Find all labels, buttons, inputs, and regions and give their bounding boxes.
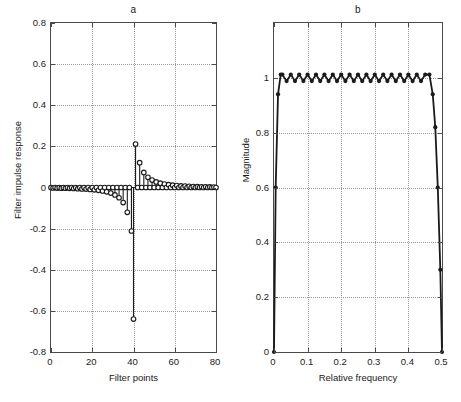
panel-a-x-axis-label: Filter points [50,372,217,383]
x-tick-mark-top [442,23,443,27]
x-tick-label: 80 [210,356,221,367]
x-tick-label: 0 [47,356,52,367]
y-tick-mark [51,270,55,271]
y-tick-mark-right [212,64,216,65]
y-tick-mark-right [438,78,442,79]
y-tick-mark [51,146,55,147]
x-tick-mark [134,348,135,352]
y-tick-label: 0.8 [20,17,46,28]
y-tick-mark-right [438,188,442,189]
y-tick-mark-right [212,311,216,312]
data-point-markers [272,72,444,354]
x-tick-mark-top [216,23,217,27]
x-tick-mark [442,348,443,352]
y-tick-mark [51,311,55,312]
y-tick-mark-right [212,23,216,24]
x-tick-mark [375,348,376,352]
x-tick-mark-top [308,23,309,27]
y-tick-label: -0.6 [20,304,46,315]
y-tick-mark [51,188,55,189]
y-tick-label: -0.2 [20,222,46,233]
x-tick-mark [308,348,309,352]
y-tick-label: 0 [243,346,269,357]
y-tick-mark-right [212,270,216,271]
x-tick-mark [175,348,176,352]
y-tick-mark-right [438,133,442,134]
y-tick-label: 0.4 [20,99,46,110]
y-tick-mark [274,242,278,243]
panel-a-plot-area [50,22,217,353]
panel-b-y-axis-label: Magnitude [240,90,251,230]
y-tick-label: 0.6 [20,58,46,69]
y-tick-label: 0.4 [243,236,269,247]
y-tick-label: 0.2 [243,291,269,302]
panel-b: b 00.10.20.30.40.500.20.40.60.81 Relativ… [230,0,461,402]
magnitude-response-line [274,75,442,352]
y-tick-mark [51,64,55,65]
y-tick-label: 1 [243,71,269,82]
x-tick-label: 0 [270,356,275,367]
y-tick-label: 0.2 [20,140,46,151]
y-tick-mark [274,133,278,134]
y-tick-mark-right [212,188,216,189]
x-tick-mark-top [274,23,275,27]
y-tick-mark [274,78,278,79]
x-tick-label: 0.1 [300,356,313,367]
y-tick-label: -0.4 [20,263,46,274]
figure-canvas: a 020406080-0.8-0.6-0.4-0.200.20.40.60.8… [0,0,461,402]
x-tick-mark-top [134,23,135,27]
y-tick-mark [274,188,278,189]
x-tick-label: 0.2 [334,356,347,367]
panel-b-plot-area [273,22,443,353]
x-tick-mark-top [375,23,376,27]
y-tick-mark-right [212,146,216,147]
y-tick-mark [51,23,55,24]
panel-a: a 020406080-0.8-0.6-0.4-0.200.20.40.60.8… [0,0,231,402]
x-tick-mark-top [341,23,342,27]
panel-b-x-axis-label: Relative frequency [273,372,443,383]
y-tick-mark [274,352,278,353]
x-tick-mark-top [175,23,176,27]
y-tick-mark-right [212,352,216,353]
panel-a-data-series [51,23,216,352]
y-tick-mark [51,229,55,230]
x-tick-mark [216,348,217,352]
panel-b-data-series [274,23,442,352]
x-tick-label: 0.4 [401,356,414,367]
y-tick-label: 0 [20,181,46,192]
y-tick-mark-right [212,105,216,106]
y-tick-label: -0.8 [20,346,46,357]
x-tick-mark-top [408,23,409,27]
y-tick-mark-right [212,229,216,230]
y-tick-mark [51,105,55,106]
y-tick-mark [274,297,278,298]
panel-b-title: b [273,4,443,15]
x-tick-label: 20 [86,356,97,367]
x-tick-mark-top [92,23,93,27]
x-tick-mark [341,348,342,352]
y-tick-mark-right [438,352,442,353]
panel-a-title: a [50,4,217,15]
y-tick-mark-right [438,297,442,298]
x-tick-label: 0.3 [367,356,380,367]
y-tick-mark-right [438,242,442,243]
x-tick-mark [408,348,409,352]
x-tick-label: 40 [127,356,138,367]
x-tick-mark [92,348,93,352]
panel-a-y-axis-label: Filter impulse response [12,60,23,280]
x-tick-label: 60 [168,356,179,367]
y-tick-mark [51,352,55,353]
x-tick-label: 0.5 [434,356,447,367]
